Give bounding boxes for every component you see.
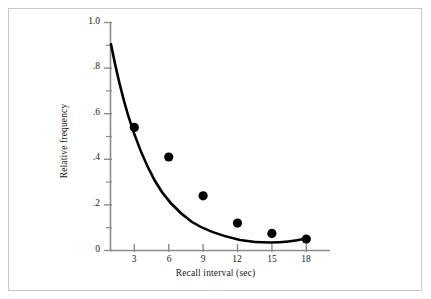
ytick-label-1: 1.0 xyxy=(76,16,100,26)
data-point xyxy=(267,229,276,238)
xtick-label-5: 15 xyxy=(260,254,284,264)
y-axis-title-container: Relative frequency xyxy=(57,88,71,198)
ytick-label-6: 0 xyxy=(76,244,100,254)
ytick-label-5: .2 xyxy=(76,198,100,208)
figure-page: 1.0 .8 .6 .4 .2 0 3 6 9 12 15 18 Recall … xyxy=(0,0,431,299)
ytick-label-4: .4 xyxy=(76,152,100,162)
xtick-label-6: 18 xyxy=(294,254,318,264)
data-point xyxy=(302,235,311,244)
xtick-label-1: 3 xyxy=(122,254,146,264)
xtick-label-2: 6 xyxy=(157,254,181,264)
data-point xyxy=(164,152,173,161)
x-axis-title: Recall interval (sec) xyxy=(0,268,431,278)
ytick-label-2: .8 xyxy=(76,61,100,71)
data-point xyxy=(199,191,208,200)
data-point xyxy=(130,123,139,132)
xtick-label-4: 12 xyxy=(225,254,249,264)
y-axis-title: Relative frequency xyxy=(59,86,69,196)
fitted-curve xyxy=(111,44,306,242)
ytick-label-3: .6 xyxy=(76,107,100,117)
data-point xyxy=(233,219,242,228)
xtick-label-3: 9 xyxy=(191,254,215,264)
